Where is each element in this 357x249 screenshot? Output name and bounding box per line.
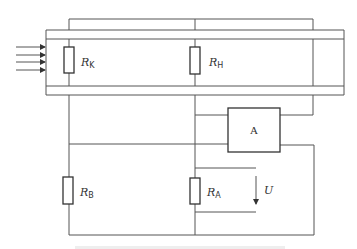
circuit-diagram: RK RH RB RA A U <box>0 0 357 249</box>
resistor-ra <box>190 178 200 204</box>
resistor-rh <box>190 47 200 74</box>
label-rb: RB <box>79 186 94 200</box>
label-voltage: U <box>264 184 274 197</box>
label-ra: RA <box>206 186 221 200</box>
resistor-rk <box>64 47 74 73</box>
label-rh: RH <box>208 56 223 70</box>
resistor-rb <box>63 177 73 204</box>
label-amplifier: A <box>250 124 258 136</box>
flow-arrows-icon <box>16 47 45 70</box>
label-rk: RK <box>80 56 95 70</box>
